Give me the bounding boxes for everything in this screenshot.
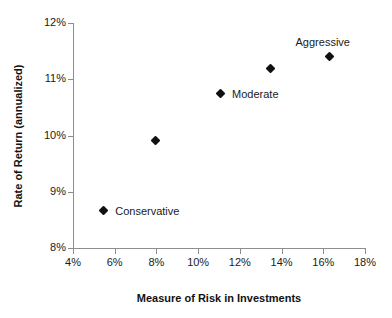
- data-point-marker: [215, 88, 225, 98]
- y-axis-tick-label: 12%: [36, 17, 66, 28]
- x-axis-tick: [156, 248, 157, 254]
- data-point-marker: [325, 52, 335, 62]
- x-axis-tick-label: 14%: [262, 256, 302, 268]
- y-axis-tick-label: 9%: [36, 186, 66, 197]
- x-axis-tick: [198, 248, 199, 254]
- x-axis-tick-label: 6%: [95, 256, 135, 268]
- x-axis-tick-label: 10%: [178, 256, 218, 268]
- x-axis-tick-label: 12%: [220, 256, 260, 268]
- x-axis-tick: [73, 248, 74, 254]
- x-axis-tick-label: 16%: [303, 256, 343, 268]
- y-axis-tick: [68, 192, 74, 193]
- x-axis-line: [73, 248, 365, 249]
- data-point-marker: [265, 63, 275, 73]
- y-axis-tick: [68, 79, 74, 80]
- y-axis-tick-label: 8%: [36, 242, 66, 253]
- x-axis-tick: [240, 248, 241, 254]
- y-axis-tick: [68, 136, 74, 137]
- data-point-marker: [98, 205, 108, 215]
- y-axis-title: Rate of Return (annualized): [12, 56, 24, 216]
- cropped-title-remnant: [0, 0, 392, 4]
- x-axis-tick-label: 18%: [345, 256, 385, 268]
- chart-screenshot: 8%9%10%11%12% 4%6%8%10%12%14%16%18% Cons…: [0, 0, 392, 318]
- y-axis-tick: [68, 23, 74, 24]
- x-axis-tick-label: 8%: [136, 256, 176, 268]
- x-axis-title: Measure of Risk in Investments: [73, 292, 365, 304]
- y-axis-tick-label: 11%: [36, 73, 66, 84]
- x-axis-tick: [323, 248, 324, 254]
- x-axis-tick: [365, 248, 366, 254]
- data-point-label: Conservative: [115, 205, 179, 217]
- x-axis-tick: [115, 248, 116, 254]
- data-point-label: Aggressive: [296, 36, 350, 48]
- y-axis-tick-label: 10%: [36, 130, 66, 141]
- x-axis-tick-label: 4%: [53, 256, 93, 268]
- x-axis-tick: [282, 248, 283, 254]
- data-point-marker: [150, 135, 160, 145]
- data-point-label: Moderate: [232, 88, 278, 100]
